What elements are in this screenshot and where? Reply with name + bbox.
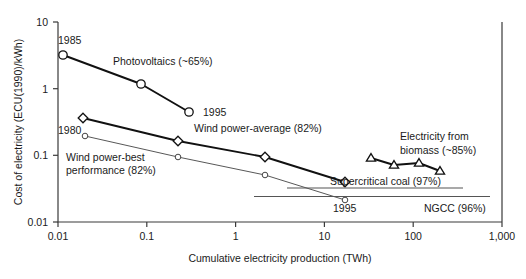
annotation-biomass-l2: biomass (~85%) [400, 144, 476, 156]
annotation-wind-average: Wind power-average (82%) [194, 122, 322, 134]
x-axis-tick-label: 1 [233, 230, 239, 242]
chart-plot-area: 10 1 0.1 0.01 0.01 0.1 1 10 100 1,000 Cu… [0, 0, 526, 279]
x-axis-title: Cumulative electricity production (TWh) [188, 252, 371, 264]
data-point-wind-best [262, 172, 268, 178]
data-point-photovoltaics [137, 80, 145, 88]
data-point-wind-average [260, 152, 270, 162]
annotation-pv-end-year: 1995 [203, 106, 227, 118]
x-axis-tick-label: 0.01 [48, 230, 69, 242]
y-axis-tick-label: 1 [42, 83, 48, 95]
series-line-biomass [371, 158, 440, 171]
annotation-pv-start-year: 1985 [58, 34, 82, 46]
y-axis-tick-label: 10 [36, 16, 48, 28]
annotation-photovoltaics: Photovoltaics (~65%) [113, 55, 213, 67]
y-axis-tick-label: 0.1 [33, 149, 48, 161]
data-point-wind-best [175, 154, 181, 160]
annotation-biomass-l1: Electricity from [400, 130, 469, 142]
y-axis-title: Cost of electricity (ECU(1990)/kWh) [12, 39, 24, 205]
annotation-supercritical-coal: Supercritical coal (97%) [330, 175, 441, 187]
annotation-ngcc: NGCC (96%) [424, 202, 486, 214]
data-point-photovoltaics [59, 51, 67, 59]
annotation-wind-end-year: 1995 [333, 202, 357, 214]
y-axis-tick-label: 0.01 [28, 216, 49, 228]
data-point-wind-best [82, 133, 88, 139]
x-axis-tick-label: 10 [319, 230, 331, 242]
annotation-wind-start-year: 1980 [58, 124, 82, 136]
data-point-wind-average [78, 113, 88, 123]
x-axis-tick-label: 100 [404, 230, 422, 242]
x-axis-tick-label: 0.1 [139, 230, 154, 242]
chart-figure: 10 1 0.1 0.01 0.01 0.1 1 10 100 1,000 Cu… [0, 0, 526, 279]
data-point-wind-average [173, 136, 183, 146]
annotation-wind-best-l2: performance (82%) [66, 164, 156, 176]
data-point-biomass [366, 154, 375, 162]
annotation-wind-best-l1: Wind power-best [66, 151, 145, 163]
x-axis-tick-label: 1,000 [489, 230, 515, 242]
data-point-photovoltaics [185, 108, 193, 116]
